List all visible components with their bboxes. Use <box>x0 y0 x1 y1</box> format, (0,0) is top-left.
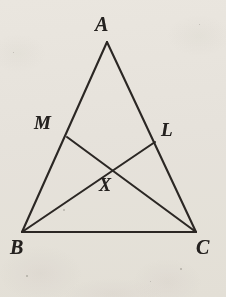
vertex-label-l: L <box>161 120 173 139</box>
vertex-label-x: X <box>99 176 111 194</box>
vertex-label-b: B <box>10 237 23 257</box>
vertex-label-a: A <box>95 14 108 34</box>
triangle-diagram-svg <box>0 0 226 297</box>
vertex-label-m: M <box>34 113 51 132</box>
vertex-label-c: C <box>196 237 209 257</box>
geometry-figure: ABCMLX <box>0 0 226 297</box>
cevian-mc <box>67 137 196 232</box>
side-ac <box>107 42 196 232</box>
